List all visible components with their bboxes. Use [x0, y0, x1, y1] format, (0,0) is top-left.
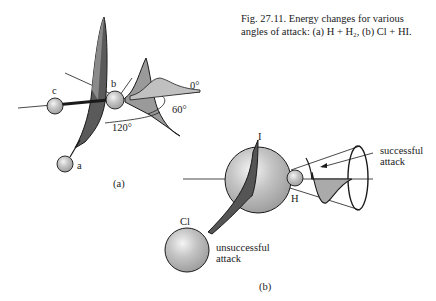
successful-energy-profile: [312, 172, 352, 203]
atom-label-H: H: [291, 193, 299, 204]
atom-H: [287, 170, 303, 186]
caption-line-1: Fig. 27.11. Energy changes for various: [241, 12, 436, 25]
panel-b-label: (b): [259, 281, 271, 292]
atom-a: [57, 156, 73, 172]
panel-a-figure: [18, 17, 200, 172]
angle-label-120: 120°: [112, 122, 132, 133]
angle-label-0: 0°: [190, 80, 199, 91]
atom-label-Cl: Cl: [180, 216, 190, 227]
atom-label-c: c: [52, 85, 57, 96]
figure-caption: Fig. 27.11. Energy changes for various a…: [241, 12, 436, 38]
atom-label-I: I: [258, 131, 262, 142]
successful-curve-upper: [306, 158, 312, 179]
caption-line-2: angles of attack: (a) H + H₂, (b) Cl + H…: [241, 25, 436, 38]
atom-Cl: [165, 228, 209, 272]
unsuccessful-attack-label-1: unsuccessful: [216, 242, 270, 253]
angle-label-60: 60°: [172, 104, 187, 115]
atom-b: [106, 91, 124, 109]
atom-label-b: b: [111, 78, 116, 89]
successful-attack-label-2: attack: [380, 156, 405, 167]
successful-arrowhead: [320, 163, 327, 168]
panel-a-label: (a): [113, 178, 125, 189]
approach-line-a: [70, 140, 80, 157]
successful-attack-label-1: successful: [380, 145, 423, 156]
successful-arrow: [322, 153, 373, 167]
atom-label-a: a: [77, 160, 82, 171]
atom-c: [47, 98, 63, 114]
unsuccessful-attack-label-2: attack: [216, 253, 241, 264]
